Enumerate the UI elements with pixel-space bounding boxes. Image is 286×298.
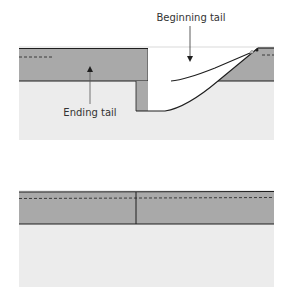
tail-tip-marker: [251, 51, 254, 54]
left-water-block: [19, 48, 148, 81]
figure: Beginning tail Ending tail: [0, 0, 286, 298]
lower-band-top-line: [19, 192, 274, 193]
crest-marker: [256, 49, 259, 52]
wall-post: [136, 81, 148, 111]
lower-diagram: [19, 190, 274, 287]
lower-water-band: [19, 192, 274, 224]
beginning-tail-label: Beginning tail: [156, 12, 225, 23]
upper-diagram: Beginning tail Ending tail: [19, 12, 274, 140]
ending-tail-label: Ending tail: [63, 107, 116, 118]
